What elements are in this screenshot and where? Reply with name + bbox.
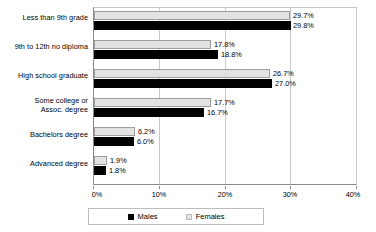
bar-value-females-9th-to-12th-no-diploma: 17.8% [214,40,235,49]
bar-females-less-than-9th-grade [94,11,290,20]
bar-females-advanced-degree [94,156,107,165]
legend-swatch-males-icon [128,214,134,220]
bar-group-bachelors-degree: 6.2% 6.0% [94,127,356,153]
category-label-9th-to-12th-no-diploma: 9th to 12th no diploma [0,43,88,52]
bar-value-males-9th-to-12th-no-diploma: 18.8% [221,50,242,59]
chart-legend: Males Females [88,208,264,225]
legend-label-females: Females [196,212,225,221]
bar-value-females-high-school-graduate: 26.7% [273,69,294,78]
tick-label-10: 10% [152,190,167,199]
bar-chart: Less than 9th grade 9th to 12th no diplo… [0,0,376,232]
tick-label-30: 30% [283,190,298,199]
bar-males-bachelors-degree [94,137,134,146]
category-label-bachelors-degree: Bachelors degree [0,131,88,140]
tick-label-0: 0% [92,190,103,199]
bar-value-females-bachelors-degree: 6.2% [138,127,155,136]
bar-group-advanced-degree: 1.9% 1.8% [94,156,356,182]
bar-group-high-school-graduate: 26.7% 27.0% [94,69,356,95]
bar-value-males-less-than-9th-grade: 29.8% [293,21,314,30]
bar-value-males-some-college-or-assoc-degree: 16.7% [207,108,228,117]
bar-males-less-than-9th-grade [94,21,291,30]
category-label-some-college-or-assoc-degree: Some college or Assoc. degree [0,97,88,114]
plot-area: 29.7% 29.8% 17.8% 18.8% 26.7% 27.0% 17.7… [93,7,357,185]
category-axis-labels: Less than 9th grade 9th to 12th no diplo… [0,7,91,185]
tick-mark-0 [93,186,94,189]
category-label-less-than-9th-grade: Less than 9th grade [0,14,88,23]
tick-mark-10 [159,186,160,189]
legend-label-males: Males [138,212,158,221]
bar-value-males-high-school-graduate: 27.0% [275,79,296,88]
category-label-advanced-degree: Advanced degree [0,160,88,169]
bar-males-advanced-degree [94,166,106,175]
tick-label-40: 40% [346,190,361,199]
bar-value-females-advanced-degree: 1.9% [110,156,127,165]
tick-label-20: 20% [218,190,233,199]
bar-males-9th-to-12th-no-diploma [94,50,218,59]
bar-value-females-some-college-or-assoc-degree: 17.7% [214,98,235,107]
category-label-high-school-graduate: High school graduate [0,72,88,81]
legend-entry-females: Females [186,212,225,221]
bar-group-some-college-or-assoc-degree: 17.7% 16.7% [94,98,356,124]
bar-value-males-advanced-degree: 1.8% [109,166,126,175]
tick-mark-30 [290,186,291,189]
bar-females-bachelors-degree [94,127,135,136]
bar-females-some-college-or-assoc-degree [94,98,211,107]
tick-mark-20 [225,186,226,189]
bar-females-9th-to-12th-no-diploma [94,40,211,49]
bar-value-females-less-than-9th-grade: 29.7% [293,11,314,20]
bar-group-9th-to-12th-no-diploma: 17.8% 18.8% [94,40,356,66]
bar-females-high-school-graduate [94,69,270,78]
tick-mark-40 [356,186,357,189]
bar-males-high-school-graduate [94,79,272,88]
bar-group-less-than-9th-grade: 29.7% 29.8% [94,11,356,37]
bar-males-some-college-or-assoc-degree [94,108,204,117]
value-axis: 0% 10% 20% 30% 40% [93,186,357,200]
bar-value-males-bachelors-degree: 6.0% [137,137,154,146]
legend-swatch-females-icon [186,214,192,220]
legend-entry-males: Males [128,212,158,221]
